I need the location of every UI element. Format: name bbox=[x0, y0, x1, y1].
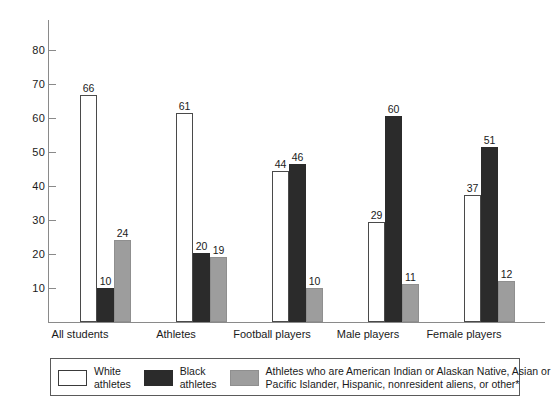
legend-swatch-white-icon bbox=[58, 370, 87, 386]
y-axis-tick: 60 bbox=[14, 112, 56, 124]
bar-black[interactable]: 10 bbox=[97, 288, 114, 322]
bar-white[interactable]: 61 bbox=[176, 113, 193, 322]
bar-value-label: 51 bbox=[484, 134, 496, 146]
bar-value-label: 61 bbox=[179, 100, 191, 112]
bar-black[interactable]: 51 bbox=[481, 147, 498, 322]
y-axis-tick-label: 80 bbox=[32, 44, 45, 56]
bar-white[interactable]: 37 bbox=[464, 195, 481, 322]
bar-black[interactable]: 46 bbox=[289, 164, 306, 322]
plot-area: 80 70 60 50 40 30 20 10 bbox=[48, 20, 545, 323]
bar-black[interactable]: 20 bbox=[193, 253, 210, 322]
y-axis-tick-mark bbox=[48, 84, 56, 85]
bar-value-label: 24 bbox=[117, 227, 129, 239]
legend-label: Black athletes bbox=[180, 365, 217, 391]
bar-other[interactable]: 11 bbox=[402, 284, 419, 322]
bar-white[interactable]: 44 bbox=[272, 171, 289, 322]
bar-black[interactable]: 60 bbox=[385, 116, 402, 322]
y-axis-tick-label: 20 bbox=[32, 248, 45, 260]
y-axis-tick-mark bbox=[48, 186, 56, 187]
x-axis-group-label: Athletes bbox=[156, 328, 196, 341]
y-axis-tick-label: 40 bbox=[32, 180, 45, 192]
y-axis-tick-label: 30 bbox=[32, 214, 45, 226]
x-axis-group-label: Female players bbox=[426, 328, 501, 341]
y-axis-tick: 30 bbox=[14, 214, 56, 226]
y-axis-tick: 70 bbox=[14, 78, 56, 90]
bar-value-label: 44 bbox=[275, 158, 287, 170]
x-axis-group-label: Football players bbox=[233, 328, 311, 341]
legend-label-line1: Black bbox=[180, 365, 206, 377]
legend-label-line2: athletes bbox=[94, 378, 131, 391]
y-axis-tick-mark bbox=[48, 288, 56, 289]
y-axis-tick-label: 10 bbox=[32, 282, 45, 294]
bar-group-bars: 37 51 12 bbox=[464, 20, 515, 322]
legend-label-line1: White bbox=[94, 365, 121, 377]
bar-group-bars: 44 46 10 bbox=[272, 20, 323, 322]
x-axis-group-label: All students bbox=[52, 328, 109, 341]
y-axis-tick: 50 bbox=[14, 146, 56, 158]
bar-value-label: 60 bbox=[388, 103, 400, 115]
legend-label-line2: Pacific Islander, Hispanic, nonresident … bbox=[266, 378, 551, 391]
y-axis-tick-label: 60 bbox=[32, 112, 45, 124]
y-axis-tick-mark bbox=[48, 118, 56, 119]
y-axis-tick-mark bbox=[48, 254, 56, 255]
y-axis-tick: 10 bbox=[14, 282, 56, 294]
bar-other[interactable]: 19 bbox=[210, 257, 227, 322]
legend-swatch-black-icon bbox=[144, 370, 173, 386]
bar-value-label: 66 bbox=[83, 82, 95, 94]
legend-label: White athletes bbox=[94, 365, 131, 391]
y-axis-tick-mark bbox=[48, 220, 56, 221]
bar-other[interactable]: 10 bbox=[306, 288, 323, 322]
y-axis-tick-mark bbox=[48, 50, 56, 51]
bar-value-label: 46 bbox=[292, 151, 304, 163]
x-axis-group-label: Male players bbox=[337, 328, 399, 341]
bar-group-bars: 29 60 11 bbox=[368, 20, 419, 322]
bar-value-label: 10 bbox=[100, 275, 112, 287]
footnote bbox=[52, 405, 452, 414]
legend-swatch-other-icon bbox=[230, 370, 259, 386]
y-axis-tick-label: 70 bbox=[32, 78, 45, 90]
bar-value-label: 10 bbox=[309, 275, 321, 287]
legend-item-white-athletes[interactable]: White athletes bbox=[58, 365, 131, 391]
y-axis-tick: 40 bbox=[14, 180, 56, 192]
legend-label-line1: Athletes who are American Indian or Alas… bbox=[266, 365, 551, 377]
bar-white[interactable]: 66 bbox=[80, 95, 97, 322]
bar-other[interactable]: 12 bbox=[498, 281, 515, 322]
bar-value-label: 12 bbox=[501, 268, 513, 280]
legend-label: Athletes who are American Indian or Alas… bbox=[266, 365, 551, 391]
x-axis-line bbox=[48, 322, 545, 323]
bar-group-bars: 61 20 19 bbox=[176, 20, 227, 322]
y-axis-tick-label: 50 bbox=[32, 146, 45, 158]
y-axis-tick: 20 bbox=[14, 248, 56, 260]
bar-other[interactable]: 24 bbox=[114, 240, 131, 322]
bar-value-label: 29 bbox=[371, 209, 383, 221]
bar-value-label: 37 bbox=[467, 182, 479, 194]
y-axis-line bbox=[48, 20, 49, 323]
bar-value-label: 11 bbox=[405, 271, 416, 283]
legend-item-black-athletes[interactable]: Black athletes bbox=[144, 365, 217, 391]
bar-white[interactable]: 29 bbox=[368, 222, 385, 322]
bar-group-bars: 66 10 24 bbox=[80, 20, 131, 322]
y-axis-tick-mark bbox=[48, 152, 56, 153]
legend-label-line2: athletes bbox=[180, 378, 217, 391]
legend-item-other-athletes[interactable]: Athletes who are American Indian or Alas… bbox=[230, 365, 551, 391]
legend: White athletes Black athletes Athletes w… bbox=[50, 358, 520, 396]
y-axis-tick: 80 bbox=[14, 44, 56, 56]
bar-chart: 80 70 60 50 40 30 20 10 bbox=[0, 0, 556, 414]
bar-value-label: 20 bbox=[196, 240, 208, 252]
bar-value-label: 19 bbox=[213, 244, 225, 256]
